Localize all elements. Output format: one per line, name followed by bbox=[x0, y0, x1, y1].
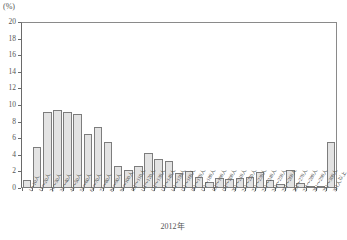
bar-slot bbox=[295, 22, 305, 188]
bar-slot bbox=[154, 22, 164, 188]
bar-slot bbox=[113, 22, 123, 188]
y-axis-tick-label: 2 bbox=[12, 166, 16, 175]
bar-slot bbox=[316, 22, 326, 188]
bar-slot bbox=[194, 22, 204, 188]
bar-slot bbox=[63, 22, 73, 188]
bar-slot bbox=[285, 22, 295, 188]
bar-slot bbox=[83, 22, 93, 188]
bar-slot bbox=[32, 22, 42, 188]
bar-slot bbox=[133, 22, 143, 188]
bar-slot bbox=[235, 22, 245, 188]
y-axis-unit-label: (%) bbox=[3, 2, 15, 11]
bar-slot bbox=[204, 22, 214, 188]
bar-series bbox=[22, 22, 336, 188]
y-axis-tick-mark bbox=[18, 188, 21, 189]
y-axis-tick-label: 16 bbox=[9, 50, 17, 59]
bar-slot bbox=[255, 22, 265, 188]
bar-slot bbox=[42, 22, 52, 188]
bar-slot bbox=[326, 22, 336, 188]
bar-slot bbox=[144, 22, 154, 188]
bar-slot bbox=[225, 22, 235, 188]
y-axis-tick-label: 10 bbox=[9, 100, 17, 109]
bar-slot bbox=[93, 22, 103, 188]
x-axis-caption: 2012年 bbox=[0, 222, 345, 232]
bar-slot bbox=[306, 22, 316, 188]
bar-slot bbox=[275, 22, 285, 188]
y-axis-tick-label: 4 bbox=[12, 150, 16, 159]
bar-slot bbox=[73, 22, 83, 188]
y-axis-tick-label: 12 bbox=[9, 83, 17, 92]
bar-slot bbox=[174, 22, 184, 188]
y-axis-tick-label: 20 bbox=[9, 17, 17, 26]
bar-slot bbox=[103, 22, 113, 188]
bar-slot bbox=[265, 22, 275, 188]
bar-slot bbox=[184, 22, 194, 188]
bar-slot bbox=[52, 22, 62, 188]
bar-slot bbox=[214, 22, 224, 188]
bar-slot bbox=[164, 22, 174, 188]
bar-slot bbox=[245, 22, 255, 188]
y-axis-tick-label: 14 bbox=[9, 67, 17, 76]
y-axis-tick-label: 8 bbox=[12, 117, 16, 126]
y-axis-tick-label: 18 bbox=[9, 34, 17, 43]
y-axis: 02468101214161820 bbox=[0, 22, 21, 189]
y-axis-tick-label: 6 bbox=[12, 133, 16, 142]
bar-slot bbox=[123, 22, 133, 188]
bar-slot bbox=[22, 22, 32, 188]
